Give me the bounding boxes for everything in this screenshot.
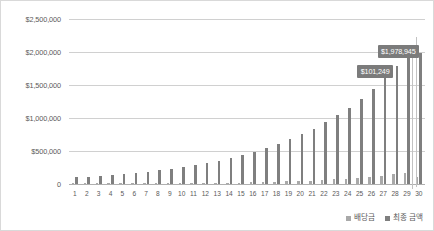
bar-group — [318, 19, 330, 184]
bar-final-amount — [182, 167, 185, 184]
bar-dividend — [167, 183, 170, 184]
y-axis-tick-label: 0 — [57, 180, 61, 189]
bar-group — [294, 19, 306, 184]
bar-dividend — [273, 182, 276, 184]
dividend-label-leader-line — [412, 57, 413, 189]
bar-group — [188, 19, 200, 184]
bar-dividend — [131, 183, 134, 184]
x-axis-tick-label: 14 — [223, 188, 235, 200]
data-label-final-amount: $1,978,945 — [378, 45, 419, 58]
bar-dividend — [380, 176, 383, 184]
bar-group — [116, 19, 128, 184]
bar-dividend — [190, 183, 193, 184]
legend-swatch-icon — [346, 216, 351, 221]
legend-item[interactable]: 최종 금액 — [385, 214, 423, 222]
bar-final-amount — [301, 134, 304, 184]
x-axis-tick-label: 21 — [306, 188, 318, 200]
bar-group — [247, 19, 259, 184]
bar-final-amount — [324, 122, 327, 184]
bar-group — [354, 19, 366, 184]
bar-final-amount — [277, 144, 280, 184]
bar-dividend — [321, 180, 324, 184]
bar-group — [93, 19, 105, 184]
bar-final-amount — [396, 66, 399, 184]
x-axis-tick-label: 7 — [140, 188, 152, 200]
bar-group — [235, 19, 247, 184]
x-axis-tick-label: 16 — [247, 188, 259, 200]
bar-final-amount — [87, 177, 90, 184]
x-axis-tick-label: 11 — [188, 188, 200, 200]
bar-final-amount — [230, 158, 233, 184]
dividend-growth-bar-chart: 0$500,000$1,000,000$1,500,000$2,000,000$… — [0, 0, 434, 231]
y-axis-tick-label: $1,500,000 — [25, 81, 61, 90]
x-axis-tick-label: 19 — [282, 188, 294, 200]
x-axis-tick-label: 20 — [294, 188, 306, 200]
bar-group — [330, 19, 342, 184]
bar-group — [282, 19, 294, 184]
bar-dividend — [84, 183, 87, 184]
bar-group — [389, 19, 401, 184]
bar-group — [271, 19, 283, 184]
bar-final-amount — [206, 163, 209, 184]
y-axis-tick-label: $1,000,000 — [25, 114, 61, 123]
x-axis-tick-label: 17 — [259, 188, 271, 200]
bar-group — [211, 19, 223, 184]
chart-legend: 배당금최종 금액 — [346, 214, 423, 222]
bar-dividend — [226, 183, 229, 184]
bar-dividend — [72, 183, 75, 184]
legend-item[interactable]: 배당금 — [346, 214, 375, 222]
axis-baseline — [69, 184, 425, 185]
bar-final-amount — [147, 172, 150, 184]
bar-final-amount — [158, 170, 161, 184]
bar-dividend — [356, 178, 359, 184]
bar-group — [413, 19, 425, 184]
x-axis-tick-label: 2 — [81, 188, 93, 200]
bar-group — [69, 19, 81, 184]
y-axis: 0$500,000$1,000,000$1,500,000$2,000,000$… — [1, 19, 65, 184]
x-axis-tick-label: 10 — [176, 188, 188, 200]
bar-group — [81, 19, 93, 184]
bar-group — [176, 19, 188, 184]
bar-final-amount — [419, 53, 422, 184]
y-axis-tick-label: $2,000,000 — [25, 48, 61, 57]
bar-dividend — [107, 183, 110, 184]
bar-final-amount — [336, 115, 339, 184]
bar-group — [259, 19, 271, 184]
x-axis: 1234567891011121314151617181920212223242… — [69, 188, 425, 200]
bar-dividend — [392, 174, 395, 184]
x-axis-tick-label: 1 — [69, 188, 81, 200]
bar-group — [105, 19, 117, 184]
bar-final-amount — [123, 174, 126, 184]
bar-group — [140, 19, 152, 184]
bar-final-amount — [194, 165, 197, 184]
bar-dividend — [345, 179, 348, 184]
x-axis-tick-label: 26 — [365, 188, 377, 200]
bar-group — [223, 19, 235, 184]
x-axis-tick-label: 3 — [93, 188, 105, 200]
bar-dividend — [214, 183, 217, 184]
x-axis-tick-label: 23 — [330, 188, 342, 200]
x-axis-tick-label: 30 — [413, 188, 425, 200]
x-axis-tick-label: 5 — [116, 188, 128, 200]
bar-dividend — [96, 183, 99, 184]
bar-dividend — [285, 181, 288, 184]
bar-group — [365, 19, 377, 184]
bar-dividend — [155, 183, 158, 184]
bar-group — [342, 19, 354, 184]
x-axis-tick-label: 27 — [377, 188, 389, 200]
bar-group — [164, 19, 176, 184]
plot-area: $1,978,945 $101,249 — [69, 19, 425, 184]
bars-layer — [69, 19, 425, 184]
x-axis-tick-label: 9 — [164, 188, 176, 200]
x-axis-tick-label: 22 — [318, 188, 330, 200]
bar-final-amount — [218, 161, 221, 184]
bar-dividend — [309, 181, 312, 184]
bar-dividend — [143, 183, 146, 184]
x-axis-tick-label: 29 — [401, 188, 413, 200]
y-axis-tick-label: $500,000 — [31, 147, 61, 156]
bar-dividend — [119, 183, 122, 184]
bar-final-amount — [253, 152, 256, 184]
bar-dividend — [262, 182, 265, 184]
y-axis-tick-label: $2,500,000 — [25, 15, 61, 24]
x-axis-tick-label: 24 — [342, 188, 354, 200]
